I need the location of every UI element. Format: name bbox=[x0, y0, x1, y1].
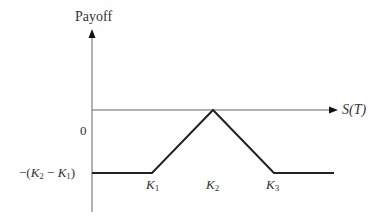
y-tick-zero: 0 bbox=[80, 124, 87, 137]
x-axis-label-text: S(T) bbox=[342, 102, 366, 117]
k2-text: K bbox=[206, 177, 215, 192]
k3-subscript: 3 bbox=[275, 183, 280, 193]
payoff-line bbox=[92, 110, 334, 173]
x-axis-arrow-icon bbox=[329, 107, 338, 114]
y-axis-label: Payoff bbox=[75, 10, 112, 24]
k3-text: K bbox=[266, 177, 275, 192]
y-tick-prefix: −( bbox=[19, 165, 31, 180]
k2-subscript: 2 bbox=[215, 183, 220, 193]
x-label-k3: K3 bbox=[266, 178, 279, 193]
y-tick-close: ) bbox=[71, 165, 75, 180]
k1-subscript: 1 bbox=[155, 183, 160, 193]
x-label-k1: K1 bbox=[146, 178, 159, 193]
y-axis-arrow-icon bbox=[89, 29, 96, 38]
y-tick-minus: − bbox=[44, 165, 58, 180]
k1-text: K bbox=[146, 177, 155, 192]
x-axis-label: S(T) bbox=[342, 103, 366, 117]
payoff-diagram-canvas bbox=[0, 0, 384, 224]
y-tick-negative: −(K2 − K1) bbox=[19, 166, 75, 181]
x-label-k2: K2 bbox=[206, 178, 219, 193]
